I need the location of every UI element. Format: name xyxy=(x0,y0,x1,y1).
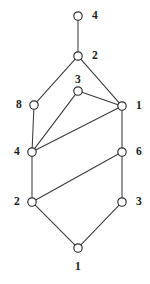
graph-node xyxy=(74,52,82,60)
graph-canvas xyxy=(0,0,150,284)
graph-node xyxy=(28,148,36,156)
graph-node xyxy=(118,198,126,206)
graph-edge xyxy=(82,92,118,104)
graph-edge xyxy=(32,109,34,148)
graph-node xyxy=(30,101,38,109)
graph-edge xyxy=(35,205,75,245)
node-label: 3 xyxy=(136,196,142,208)
node-label: 4 xyxy=(14,146,20,158)
node-label: 8 xyxy=(16,99,22,111)
graph-node xyxy=(74,244,82,252)
node-label: 3 xyxy=(75,74,81,86)
graph-node xyxy=(118,102,126,110)
graph-edge xyxy=(81,59,119,103)
graph-node xyxy=(74,12,82,20)
graph-edge xyxy=(81,205,119,245)
node-label: 4 xyxy=(92,10,98,22)
graph-node xyxy=(74,87,82,95)
node-label: 1 xyxy=(75,261,81,273)
nodes-layer xyxy=(28,12,126,252)
node-label: 1 xyxy=(136,100,142,112)
graph-edge xyxy=(36,108,119,150)
node-label: 2 xyxy=(92,50,98,62)
graph-edge xyxy=(36,154,119,200)
node-label: 6 xyxy=(136,146,142,158)
graph-node xyxy=(28,198,36,206)
graph-edge xyxy=(37,59,75,102)
graph-node xyxy=(118,148,126,156)
graph-diagram: 4238146231 xyxy=(0,0,150,284)
node-label: 2 xyxy=(14,196,20,208)
